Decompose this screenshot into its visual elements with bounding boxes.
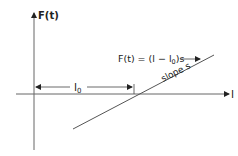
x-axis-label: l <box>231 88 234 101</box>
y-axis-label: F(t) <box>38 10 59 21</box>
equation-prefix: F(t) = (l − l <box>118 53 172 64</box>
offset-label-sub: 0 <box>77 87 81 95</box>
function-diagram: F(t) l l0 F(t) = (l − l0)s slope s <box>0 0 238 156</box>
function-line <box>73 55 214 129</box>
offset-label: l0 <box>74 81 82 95</box>
equation-label: F(t) = (l − l0)s <box>118 53 184 66</box>
